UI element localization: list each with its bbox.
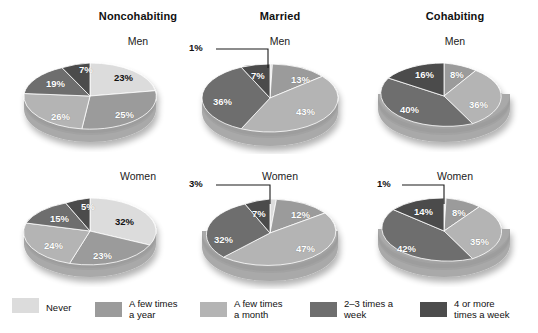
pie-chart-noncohabiting-women: 32% 23% 24% 15% 5% [18, 187, 178, 287]
pie-svg-noncohabiting-women [18, 187, 178, 287]
callout-label-never-cohabiting-women: 1% [377, 178, 391, 189]
callout-leader-line-married-women [210, 180, 280, 206]
legend-swatch-4-or-more-icon [420, 302, 447, 317]
pie-svg-cohabiting-men [372, 52, 532, 152]
legend-swatch-never-icon [12, 298, 39, 313]
callout-label-never-married-men: 1% [189, 42, 203, 53]
callout-leader-line-married-men [210, 44, 280, 70]
legend: Never A few times a year A few times a m… [0, 293, 538, 333]
legend-label-4-or-more-times-week: 4 or more times a week [454, 298, 509, 320]
legend-item-few-times-month[interactable]: A few times a month [200, 298, 283, 320]
legend-label-2-3-times-week: 2–3 times a week [344, 298, 393, 320]
legend-label-few-times-year: A few times a year [129, 298, 178, 320]
legend-swatch-2-3-times-week-icon [310, 302, 337, 317]
slice-never [90, 63, 155, 96]
column-title-cohabiting: Cohabiting [365, 10, 538, 22]
figure-root: Noncohabiting Married Cohabiting Men Men… [0, 0, 538, 333]
legend-item-never[interactable]: Never [12, 298, 71, 313]
callout-label-never-married-women: 3% [189, 178, 203, 189]
legend-label-few-times-month: A few times a month [234, 298, 283, 320]
column-title-married: Married [190, 10, 370, 22]
row-subtitle-men-cohabiting: Men [365, 35, 538, 47]
legend-item-few-times-year[interactable]: A few times a year [95, 298, 178, 320]
legend-item-2-3-times-week[interactable]: 2–3 times a week [310, 298, 393, 320]
legend-item-4-or-more-times-week[interactable]: 4 or more times a week [420, 298, 509, 320]
pie-svg-noncohabiting-men [18, 52, 178, 152]
legend-swatch-few-times-year-icon [95, 302, 122, 317]
legend-swatch-few-times-month-icon [200, 302, 227, 317]
pie-chart-noncohabiting-men: 23% 25% 26% 19% 7% [18, 52, 178, 152]
pie-chart-cohabiting-men: 8% 36% 40% 16% [372, 52, 532, 152]
legend-label-never: Never [46, 302, 71, 313]
callout-leader-line-cohabiting-women [396, 180, 456, 206]
